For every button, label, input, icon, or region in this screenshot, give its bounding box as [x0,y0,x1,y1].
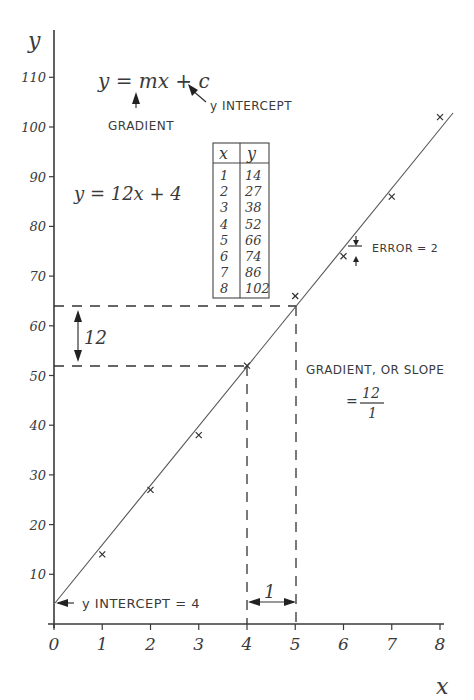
y-tick-label: 100 [21,120,46,135]
table-cell-y: 14 [245,168,262,183]
table-cell-y: 52 [245,217,262,232]
table-cell-y: 38 [245,200,262,215]
table-cell-x: 1 [220,168,228,183]
data-point-marker [389,194,395,200]
y-tick-label: 50 [29,369,46,384]
x-tick-label: 1 [97,634,108,654]
table-cell-y: 74 [245,249,262,264]
y-tick-label: 20 [28,518,46,533]
y-tick-label: 80 [29,219,46,234]
y-tick-label: 30 [29,468,46,483]
run-label: 1 [264,581,275,602]
x-tick-label: 0 [49,634,60,654]
table-cell-x: 5 [220,233,228,248]
gradient-arrow [132,92,140,108]
table-cell-x: 2 [219,184,228,199]
table-cell-y: 86 [245,265,262,280]
y-tick-label: 10 [29,567,46,582]
y-ticks: 102030405060708090100110 [21,70,54,582]
table-cell-x: 8 [220,281,228,296]
fit-equation: y = 12x + 4 [73,183,182,204]
slope-denominator: 1 [368,405,377,421]
x-tick-label: 8 [435,634,446,654]
table-cell-y: 66 [245,233,262,248]
gradient-label: GRADIENT [108,119,174,133]
data-points [99,114,443,557]
table-header-y: y [246,144,257,163]
chart-canvas: 102030405060708090100110 012345678 y x 1… [0,0,474,700]
y-tick-label: 110 [21,70,46,85]
data-point-marker [148,487,154,493]
table-cell-x: 4 [219,217,228,232]
table-cell-y: 102 [245,281,270,296]
data-point-marker [196,432,202,438]
intercept-note-arrow [56,599,74,607]
intercept-note: y INTERCEPT = 4 [82,596,200,611]
rise-label: 12 [84,327,107,348]
x-tick-label: 3 [193,634,204,654]
x-tick-label: 4 [241,634,253,654]
table-cell-x: 6 [220,249,228,264]
intercept-label: y INTERCEPT [210,99,292,113]
x-tick-label: 7 [386,634,397,654]
slope-numerator: 12 [362,385,380,401]
x-tick-label: 2 [144,634,156,654]
data-point-marker [292,293,298,299]
y-tick-label: 40 [28,418,46,433]
table-header-x: x [219,144,228,163]
error-label: ERROR = 2 [372,242,438,255]
data-table: x y 1142273384525666747868102 [213,143,270,298]
data-point-marker [437,114,443,120]
table-cell-y: 27 [244,184,262,199]
slope-equals: = [346,393,358,409]
y-axis-label: y [27,28,41,53]
x-tick-label: 6 [338,634,349,654]
data-point-marker [99,551,105,557]
table-cell-x: 3 [220,200,228,215]
y-tick-label: 70 [29,269,46,284]
table-cell-x: 7 [220,265,229,280]
x-ticks: 012345678 [49,624,446,654]
y-tick-label: 90 [29,170,46,185]
x-tick-label: 5 [290,634,301,654]
slope-text: GRADIENT, OR SLOPE [306,363,444,377]
rise-arrow [74,310,82,362]
y-tick-label: 60 [29,319,46,334]
data-point-marker [341,253,347,259]
rise-run-guides [54,306,296,624]
x-axis-label: x [436,674,449,699]
